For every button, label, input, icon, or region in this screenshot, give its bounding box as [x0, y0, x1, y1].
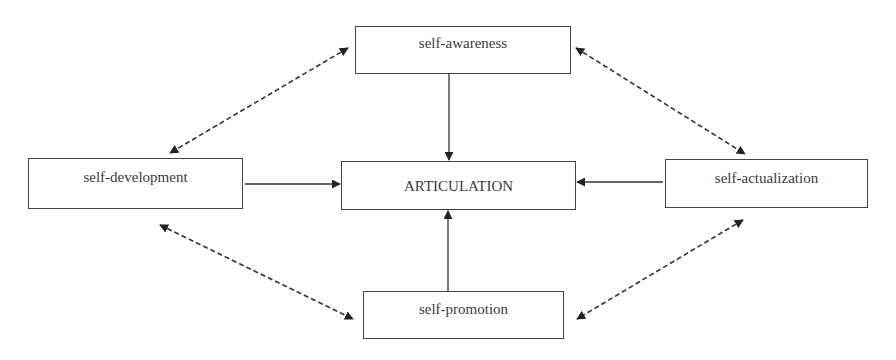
node-label: self-awareness: [356, 35, 570, 52]
dashed-bidirectional-arrow-awareness-development: [170, 48, 348, 153]
dashed-bidirectional-arrow-actualization-promotion: [577, 220, 743, 319]
node-self-development: self-development: [28, 158, 243, 209]
dashed-bidirectional-arrow-development-promotion: [160, 225, 353, 319]
dashed-bidirectional-arrow-awareness-actualization: [576, 48, 745, 154]
node-label: self-development: [29, 169, 242, 186]
node-label: self-promotion: [364, 301, 563, 318]
node-self-awareness: self-awareness: [355, 26, 571, 74]
node-articulation: ARTICULATION: [341, 161, 576, 210]
node-label: self-actualization: [666, 170, 867, 187]
node-self-promotion: self-promotion: [363, 291, 564, 339]
node-self-actualization: self-actualization: [665, 159, 868, 208]
node-label: ARTICULATION: [342, 178, 575, 195]
